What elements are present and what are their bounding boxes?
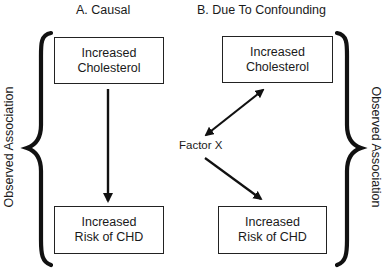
panel-b-chd-risk-box: Increased Risk of CHD <box>218 206 327 254</box>
panel-a-cholesterol-box: Increased Cholesterol <box>54 37 164 84</box>
panel-a-chd-risk-box: Increased Risk of CHD <box>54 206 164 254</box>
confounder-cholesterol-double-arrow <box>206 90 263 135</box>
box-line: Risk of CHD <box>75 230 144 245</box>
left-brace-icon <box>27 33 51 265</box>
panel-a-title: A. Causal <box>76 3 130 17</box>
box-line: Cholesterol <box>77 61 140 76</box>
panel-b-cholesterol-box: Increased Cholesterol <box>222 36 333 83</box>
confounder-chd-arrow <box>205 158 261 199</box>
right-observed-association-label: Observed Association <box>369 82 383 212</box>
box-line: Risk of CHD <box>238 230 307 245</box>
left-observed-association-label: Observed Association <box>2 82 16 212</box>
right-brace-icon <box>337 33 361 265</box>
box-line: Increased <box>246 45 309 60</box>
panel-b-title: B. Due To Confounding <box>197 3 326 17</box>
box-line: Increased <box>75 215 144 230</box>
box-line: Cholesterol <box>246 60 309 75</box>
box-line: Increased <box>77 46 140 61</box>
box-line: Increased <box>238 215 307 230</box>
factor-x-label: Factor X <box>179 139 222 151</box>
